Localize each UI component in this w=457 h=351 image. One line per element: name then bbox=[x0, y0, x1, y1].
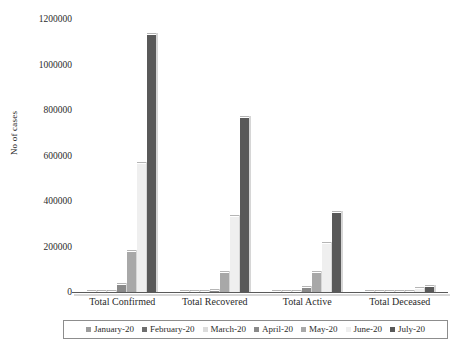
bar-group bbox=[365, 20, 435, 293]
x-axis-category-label: Total Recovered bbox=[169, 296, 262, 307]
legend-item[interactable]: March-20 bbox=[203, 325, 247, 334]
bar-side-face bbox=[156, 33, 158, 293]
bar-group bbox=[272, 20, 342, 293]
bar-slot bbox=[365, 20, 374, 293]
y-axis-tick-label: 1200000 bbox=[39, 15, 72, 25]
legend-label: February-20 bbox=[150, 325, 195, 334]
bar-top-face bbox=[230, 215, 239, 217]
bar-top-face bbox=[220, 271, 229, 273]
legend-swatch-icon bbox=[142, 327, 147, 332]
bar-top-face bbox=[312, 271, 321, 273]
bar-top-face bbox=[117, 283, 126, 285]
legend-label: January-20 bbox=[94, 325, 134, 334]
bar-top-face bbox=[322, 242, 331, 244]
x-axis-category-label: Total Confirmed bbox=[76, 296, 169, 307]
bar[interactable] bbox=[127, 252, 136, 293]
bar-group bbox=[180, 20, 250, 293]
plot-area bbox=[76, 20, 446, 293]
legend-swatch-icon bbox=[203, 327, 208, 332]
legend-label: July-20 bbox=[398, 325, 425, 334]
legend-swatch-icon bbox=[346, 327, 351, 332]
legend-label: March-20 bbox=[211, 325, 247, 334]
y-axis-tick-label: 0 bbox=[67, 288, 72, 298]
bar-top-face bbox=[127, 250, 136, 252]
bar-top-face bbox=[332, 211, 341, 213]
bar-slot bbox=[117, 20, 126, 293]
bar[interactable] bbox=[332, 213, 341, 293]
bar-slot bbox=[425, 20, 434, 293]
bar-top-face bbox=[147, 33, 156, 35]
bar-chart: No of cases 0200000400000600000800000100… bbox=[0, 0, 457, 351]
bar-top-face bbox=[425, 285, 434, 287]
bar-top-face bbox=[302, 286, 311, 288]
bar-slot bbox=[240, 20, 249, 293]
y-axis-tick-label: 800000 bbox=[44, 106, 73, 116]
bar-slot bbox=[210, 20, 219, 293]
x-axis-category-label: Total Deceased bbox=[354, 296, 447, 307]
bar-slot bbox=[322, 20, 331, 293]
legend-item[interactable]: January-20 bbox=[86, 325, 134, 334]
x-axis-line bbox=[72, 292, 448, 293]
bar[interactable] bbox=[220, 273, 229, 293]
bar-slot bbox=[147, 20, 156, 293]
legend-swatch-icon bbox=[301, 327, 306, 332]
bar-slot bbox=[220, 20, 229, 293]
bar-slot bbox=[200, 20, 209, 293]
bar-slot bbox=[385, 20, 394, 293]
bar[interactable] bbox=[322, 244, 331, 293]
legend-item[interactable]: May-20 bbox=[301, 325, 338, 334]
bar-slot bbox=[415, 20, 424, 293]
chart-legend: January-20February-20March-20April-20May… bbox=[63, 320, 448, 339]
y-axis-tick-labels: 020000040000060000080000010000001200000 bbox=[14, 0, 72, 300]
bar[interactable] bbox=[312, 273, 321, 293]
bar-side-face bbox=[341, 211, 343, 293]
legend-item[interactable]: July-20 bbox=[390, 325, 425, 334]
bar-slot bbox=[137, 20, 146, 293]
bar-slot bbox=[272, 20, 281, 293]
legend-item[interactable]: April-20 bbox=[254, 325, 293, 334]
bar-slot bbox=[97, 20, 106, 293]
legend-label: May-20 bbox=[309, 325, 338, 334]
bar-slot bbox=[282, 20, 291, 293]
bar-slot bbox=[375, 20, 384, 293]
bar-slot bbox=[332, 20, 341, 293]
bar[interactable] bbox=[137, 164, 146, 293]
bar-slot bbox=[395, 20, 404, 293]
bar-top-face bbox=[137, 162, 146, 164]
y-axis-tick-label: 600000 bbox=[44, 152, 73, 162]
bar-slot bbox=[180, 20, 189, 293]
bar-slot bbox=[405, 20, 414, 293]
y-axis-tick-label: 400000 bbox=[44, 197, 73, 207]
y-axis-tick-label: 1000000 bbox=[39, 61, 72, 71]
bar-slot bbox=[230, 20, 239, 293]
bar[interactable] bbox=[147, 35, 156, 293]
bar[interactable] bbox=[230, 217, 239, 293]
bar-slot bbox=[302, 20, 311, 293]
bar-top-face bbox=[415, 287, 424, 289]
legend-item[interactable]: February-20 bbox=[142, 325, 195, 334]
bar-slot bbox=[87, 20, 96, 293]
legend-item[interactable]: June-20 bbox=[346, 325, 383, 334]
legend-swatch-icon bbox=[254, 327, 259, 332]
bar-slot bbox=[107, 20, 116, 293]
bar-slot bbox=[292, 20, 301, 293]
legend-swatch-icon bbox=[86, 327, 91, 332]
legend-label: June-20 bbox=[354, 325, 383, 334]
y-axis-tick-label: 200000 bbox=[44, 243, 73, 253]
bar-slot bbox=[190, 20, 199, 293]
x-axis-category-labels: Total ConfirmedTotal RecoveredTotal Acti… bbox=[76, 296, 446, 314]
bar-top-face bbox=[240, 116, 249, 118]
bar-slot bbox=[127, 20, 136, 293]
bar[interactable] bbox=[240, 118, 249, 293]
bar-side-face bbox=[249, 116, 251, 293]
bar-top-face bbox=[210, 289, 219, 291]
bar-group bbox=[87, 20, 157, 293]
legend-swatch-icon bbox=[390, 327, 395, 332]
legend-label: April-20 bbox=[262, 325, 293, 334]
bar-slot bbox=[312, 20, 321, 293]
x-axis-category-label: Total Active bbox=[261, 296, 354, 307]
